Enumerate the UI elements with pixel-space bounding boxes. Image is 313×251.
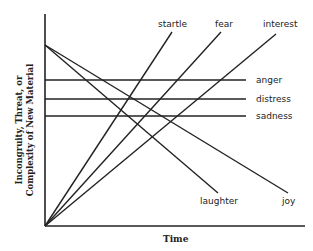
y-axis-label-line1: Incongruity, Threat, or [14,75,25,184]
label-startle: startle [158,19,187,29]
label-sadness: sadness [256,111,293,121]
label-distress: distress [256,94,291,104]
label-interest: interest [263,19,298,29]
line-interest [45,34,276,226]
x-axis-label: Time [163,234,189,244]
label-joy: joy [281,196,296,206]
emotion-activation-chart: startle fear interest anger distress sad… [0,0,313,251]
label-laughter: laughter [200,196,238,206]
label-fear: fear [215,19,233,29]
y-axis-label-line2: Complexity of New Material [25,63,35,196]
label-anger: anger [256,75,282,85]
line-laughter [45,45,218,193]
